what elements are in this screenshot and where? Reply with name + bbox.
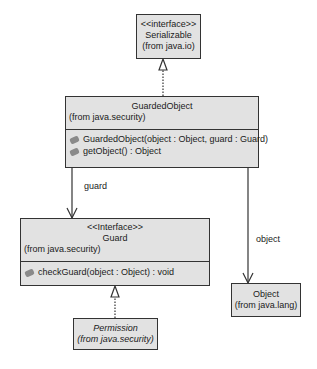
stereotype-label: <<Interface>> xyxy=(24,222,206,233)
package-label: (from java.security) xyxy=(24,244,206,255)
class-name: GuardedObject xyxy=(69,101,255,112)
class-name: Object xyxy=(232,289,300,300)
package-label: (from java.io) xyxy=(137,41,200,52)
class-name: Guard xyxy=(24,233,206,244)
operation-icon xyxy=(69,147,80,156)
package-label: (from java.lang) xyxy=(232,300,300,311)
package-label: (from java.security) xyxy=(69,112,255,123)
class-guard[interactable]: <<Interface>> Guard (from java.security)… xyxy=(20,218,210,286)
stereotype-label: <<interface>> xyxy=(137,19,200,30)
class-guarded-object[interactable]: GuardedObject (from java.security) Guard… xyxy=(65,96,259,168)
operation-get-object: getObject() : Object xyxy=(70,146,254,157)
operation-constructor: GuardedObject(object : Object, guard : G… xyxy=(70,134,254,145)
association-label-guard: guard xyxy=(84,181,107,191)
operation-icon xyxy=(69,135,80,144)
class-name: Serializable xyxy=(137,30,200,41)
class-permission[interactable]: Permission (from java.security) xyxy=(73,318,158,350)
class-name: Permission xyxy=(74,323,157,334)
class-serializable[interactable]: <<interface>> Serializable (from java.io… xyxy=(136,14,201,59)
class-object[interactable]: Object (from java.lang) xyxy=(231,283,301,317)
operation-check-guard: checkGuard(object : Object) : void xyxy=(25,267,205,278)
package-label: (from java.security) xyxy=(74,334,157,345)
association-label-object: object xyxy=(256,234,280,244)
operation-icon xyxy=(24,268,35,277)
